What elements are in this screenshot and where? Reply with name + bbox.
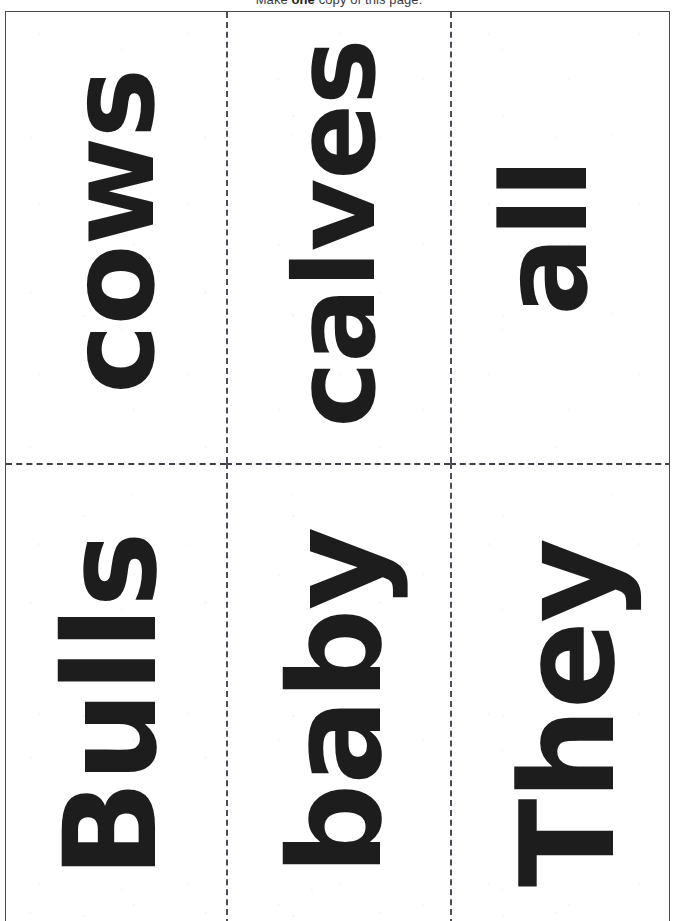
- flashcard-cell-bulls[interactable]: Bulls: [6, 463, 226, 921]
- worksheet-sheet: cows calves all Bulls baby They: [5, 11, 670, 921]
- flashcard-grid: cows calves all Bulls baby They: [6, 12, 669, 921]
- flashcard-word: calves: [283, 40, 391, 428]
- instruction-suffix: copy of this page.: [315, 0, 422, 7]
- instruction-emphasis: one: [292, 0, 315, 7]
- flashcard-cell-calves[interactable]: calves: [226, 12, 450, 463]
- flashcard-word: They: [505, 539, 630, 887]
- flashcard-word: baby: [276, 528, 399, 875]
- print-instruction: Make one copy of this page.: [0, 0, 678, 9]
- flashcard-word: all: [489, 159, 602, 315]
- instruction-prefix: Make: [256, 0, 292, 7]
- flashcard-word: cows: [55, 69, 168, 394]
- flashcard-cell-cows[interactable]: cows: [6, 12, 226, 463]
- flashcard-cell-all[interactable]: all: [450, 12, 670, 463]
- flashcard-cell-they[interactable]: They: [450, 463, 670, 921]
- flashcard-cell-baby[interactable]: baby: [226, 463, 450, 921]
- flashcard-word: Bulls: [51, 533, 174, 878]
